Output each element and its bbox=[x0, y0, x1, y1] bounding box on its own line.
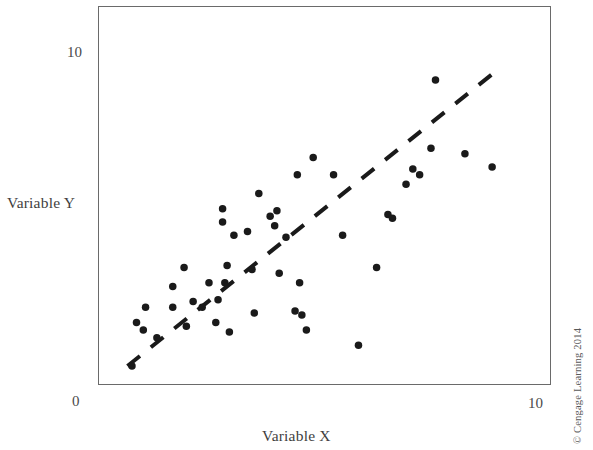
copyright-credit: © Cengage Learning 2014 bbox=[575, 274, 591, 444]
plot-frame bbox=[98, 6, 551, 385]
y-axis-tick-label-max: 10 bbox=[67, 44, 82, 61]
x-axis-title: Variable X bbox=[262, 427, 331, 445]
y-axis-tick-label-min: 0 bbox=[72, 393, 80, 410]
x-axis-tick-label-max: 10 bbox=[528, 395, 543, 412]
scatter-plot-figure: Variable Y Variable X 10 0 10 © Cengage … bbox=[0, 0, 593, 450]
y-axis-title: Variable Y bbox=[7, 194, 75, 212]
copyright-credit-text: © Cengage Learning 2014 bbox=[572, 328, 583, 444]
